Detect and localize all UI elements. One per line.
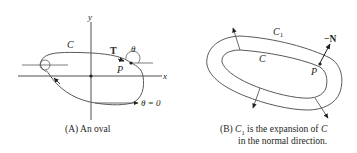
- y-axis-label: y: [87, 12, 92, 22]
- caption-a: (A) An oval: [65, 124, 110, 135]
- direction-arrow: [54, 78, 60, 84]
- tangent-t-label: T: [110, 45, 117, 56]
- theta-label: θ: [131, 44, 136, 54]
- outer-curve-c1: [207, 36, 342, 110]
- inner-curve-label: C: [259, 53, 266, 64]
- point-p-label-b: P: [310, 66, 317, 77]
- normal-arrow-p: [320, 44, 330, 63]
- normal-n-label: −N: [324, 34, 336, 44]
- panel-b-expansion: C1 C −N P: [207, 26, 342, 118]
- origin-dot: [89, 74, 92, 77]
- point-p-label: P: [116, 64, 123, 75]
- normal-arrow-bottom-right: [315, 98, 328, 118]
- normal-arrow-bottom-left: [253, 88, 260, 108]
- tangent-arrow-t: [118, 59, 124, 61]
- caption-b-line2: in the normal direction.: [238, 136, 327, 147]
- panel-a-oval: y x C T θ P θ = 0: [18, 12, 167, 120]
- oval-curve-c: [41, 52, 144, 104]
- x-axis-label: x: [162, 71, 167, 81]
- normal-arrow-top-left: [233, 28, 240, 50]
- point-p-dot-b: [318, 62, 321, 65]
- point-p-dot: [129, 61, 132, 64]
- curve-c-label: C: [67, 39, 74, 50]
- theta-zero-label: θ = 0: [141, 98, 161, 108]
- outer-curve-label: C1: [273, 26, 284, 39]
